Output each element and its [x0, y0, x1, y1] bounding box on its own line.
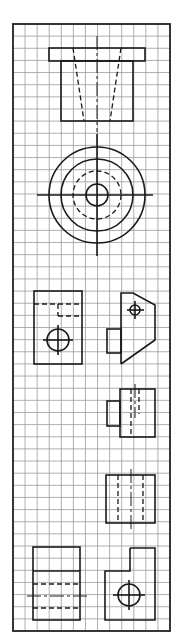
view-l-block — [105, 548, 155, 620]
grid-paper — [13, 24, 170, 631]
view-stepped-part — [107, 384, 155, 437]
view-flanged-front — [49, 36, 145, 132]
drawing-sheet — [0, 0, 179, 635]
view-concentric-top — [37, 134, 153, 256]
view-chamfered-side — [107, 293, 155, 364]
